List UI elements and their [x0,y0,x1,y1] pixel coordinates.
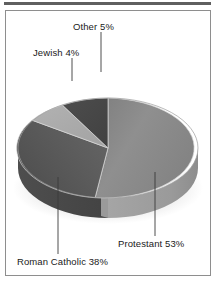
pie-chart-figure: Other 5% Jewish 4% Protestant 53% Roman … [0,0,218,282]
protestant-slice-label: Protestant 53% [118,238,184,249]
pie-chart-graphic [0,0,218,282]
jewish-slice-label: Jewish 4% [33,47,79,58]
other-slice-label: Other 5% [73,21,114,32]
roman-catholic-slice-label: Roman Catholic 38% [17,256,108,267]
protestant-radial-wall [101,196,108,218]
